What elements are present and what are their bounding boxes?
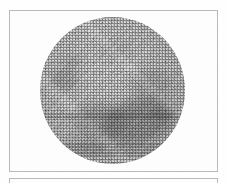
scanned-page: [0, 0, 227, 183]
moon-disk-image: [40, 17, 185, 164]
dither-speckle-layer: [40, 17, 185, 164]
figure-frame: [9, 10, 218, 172]
figure-plate-area: [10, 11, 217, 171]
next-figure-frame: [9, 178, 218, 183]
figure-caption: [9, 173, 218, 177]
